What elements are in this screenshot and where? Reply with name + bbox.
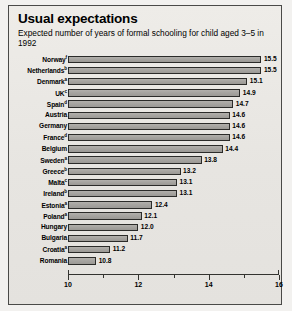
x-axis-tick bbox=[174, 275, 175, 278]
bar-value-label: 13.8 bbox=[204, 156, 217, 163]
category-label: Denmarka bbox=[37, 77, 67, 85]
bar bbox=[68, 235, 128, 243]
footnote-marker: b bbox=[64, 66, 67, 71]
category-label: Spaind bbox=[47, 100, 67, 108]
bar-row: UKc14.9 bbox=[9, 88, 283, 99]
chart-title: Usual expectations bbox=[18, 11, 137, 26]
footnote-marker: a bbox=[65, 77, 67, 82]
category-label: Hungary bbox=[41, 223, 67, 230]
bar bbox=[68, 224, 138, 232]
bar bbox=[68, 89, 240, 97]
bar-row: Belgium14.4 bbox=[9, 144, 283, 155]
bar-value-label: 14.6 bbox=[232, 122, 245, 129]
bar bbox=[68, 179, 177, 187]
bar-value-label: 13.1 bbox=[180, 178, 193, 185]
category-label: Greeceb bbox=[43, 167, 67, 175]
x-axis-tick bbox=[68, 275, 69, 280]
x-axis-tick bbox=[138, 275, 139, 280]
bar bbox=[68, 123, 230, 131]
bar-value-label: 12.1 bbox=[144, 212, 157, 219]
category-label: Irelandb bbox=[43, 189, 67, 197]
bar-value-label: 11.2 bbox=[113, 245, 125, 252]
bar-row: Estoniaa12.4 bbox=[9, 200, 283, 211]
category-label: Netherlandsb bbox=[27, 66, 67, 74]
bar-row: Austria14.6 bbox=[9, 110, 283, 121]
x-axis-tick bbox=[103, 275, 104, 278]
chart-page: Usual expectations Expected number of ye… bbox=[0, 0, 292, 311]
x-axis-tick bbox=[279, 275, 280, 280]
x-axis-tick-label: 12 bbox=[134, 281, 142, 288]
bar bbox=[68, 145, 223, 153]
footnote-marker: a bbox=[65, 212, 67, 217]
bar bbox=[68, 112, 230, 120]
bar bbox=[68, 190, 177, 198]
footnote-marker: a bbox=[65, 245, 67, 250]
footnote-marker: d bbox=[64, 133, 67, 138]
bar-value-label: 15.1 bbox=[250, 77, 263, 84]
bar-value-label: 13.1 bbox=[180, 189, 193, 196]
bar-row: Franced14.6 bbox=[9, 132, 283, 143]
footnote-marker: b bbox=[64, 167, 67, 172]
bar-row: Swedena13.8 bbox=[9, 155, 283, 166]
x-axis-tick-label: 10 bbox=[64, 281, 72, 288]
bar bbox=[68, 212, 142, 220]
bar-value-label: 12.0 bbox=[141, 223, 154, 230]
bar bbox=[68, 246, 110, 254]
chart-panel: Usual expectations Expected number of ye… bbox=[8, 5, 282, 305]
category-label: Maltac bbox=[48, 178, 67, 186]
x-axis-tick-label: 16 bbox=[275, 281, 283, 288]
category-label: Polanda bbox=[43, 212, 67, 220]
bar-value-label: 14.9 bbox=[243, 89, 256, 96]
bar bbox=[68, 67, 261, 75]
bar-row: Maltac13.1 bbox=[9, 177, 283, 188]
category-label: Romania bbox=[40, 257, 67, 264]
category-label: Germany bbox=[39, 122, 67, 129]
category-label: Franced bbox=[43, 133, 67, 141]
x-axis-tick-label: 14 bbox=[205, 281, 213, 288]
bar-row: Hungary12.0 bbox=[9, 222, 283, 233]
category-label: Estoniaa bbox=[41, 201, 67, 209]
plot-area: Norwayf15.5Netherlandsb15.5Denmarka15.1U… bbox=[9, 54, 283, 304]
bar bbox=[68, 56, 261, 64]
bar-value-label: 12.4 bbox=[155, 201, 168, 208]
bar bbox=[68, 100, 233, 108]
category-label: Swedena bbox=[40, 156, 67, 164]
footnote-marker: d bbox=[64, 100, 67, 105]
bar-row: Netherlandsb15.5 bbox=[9, 65, 283, 76]
footnote-marker: a bbox=[65, 156, 67, 161]
bar-row: Croatiaa11.2 bbox=[9, 244, 283, 255]
bar-row: Polanda12.1 bbox=[9, 211, 283, 222]
bar-value-label: 10.8 bbox=[99, 257, 112, 264]
category-label: Belgium bbox=[42, 145, 67, 152]
category-label: Austria bbox=[45, 111, 67, 118]
category-label: Norwayf bbox=[42, 55, 67, 63]
bar-value-label: 13.2 bbox=[183, 167, 196, 174]
bar bbox=[68, 201, 152, 209]
bar bbox=[68, 168, 181, 176]
bar-row: Norwayf15.5 bbox=[9, 54, 283, 65]
bar bbox=[68, 257, 96, 265]
x-axis-tick bbox=[209, 275, 210, 280]
bar-value-label: 14.4 bbox=[225, 145, 238, 152]
category-label: Bulgaria bbox=[41, 234, 67, 241]
bar-value-label: 14.7 bbox=[236, 100, 249, 107]
bar bbox=[68, 78, 247, 86]
bar-value-label: 14.6 bbox=[232, 111, 245, 118]
bar-row: Germany14.6 bbox=[9, 121, 283, 132]
footnote-marker: f bbox=[66, 55, 67, 60]
bar-row: Denmarka15.1 bbox=[9, 76, 283, 87]
bar-row: Spaind14.7 bbox=[9, 99, 283, 110]
footnote-marker: c bbox=[65, 178, 67, 183]
bar-value-label: 15.5 bbox=[264, 66, 277, 73]
bar-row: Irelandb13.1 bbox=[9, 188, 283, 199]
bar bbox=[68, 134, 230, 142]
category-label: UKc bbox=[55, 89, 67, 97]
bar-row: Greeceb13.2 bbox=[9, 166, 283, 177]
footnote-marker: c bbox=[65, 89, 67, 94]
bar bbox=[68, 156, 202, 164]
footnote-marker: b bbox=[64, 189, 67, 194]
x-axis-tick bbox=[244, 275, 245, 278]
bar-row: Romania10.8 bbox=[9, 256, 283, 267]
bar-row: Bulgaria11.7 bbox=[9, 233, 283, 244]
bar-value-label: 14.6 bbox=[232, 133, 245, 140]
